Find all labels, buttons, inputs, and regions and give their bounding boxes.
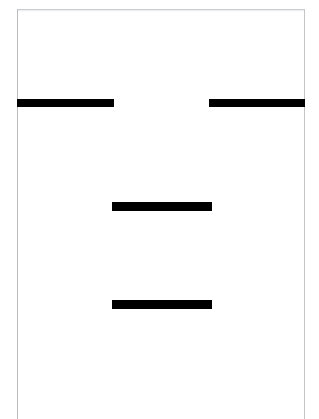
redaction-bar-2 — [209, 99, 305, 107]
document-page — [17, 9, 305, 419]
page-top-edge-shading — [18, 10, 304, 12]
redaction-bar-1 — [17, 99, 114, 107]
redaction-bar-4 — [112, 300, 212, 309]
redaction-bar-3 — [112, 202, 212, 211]
